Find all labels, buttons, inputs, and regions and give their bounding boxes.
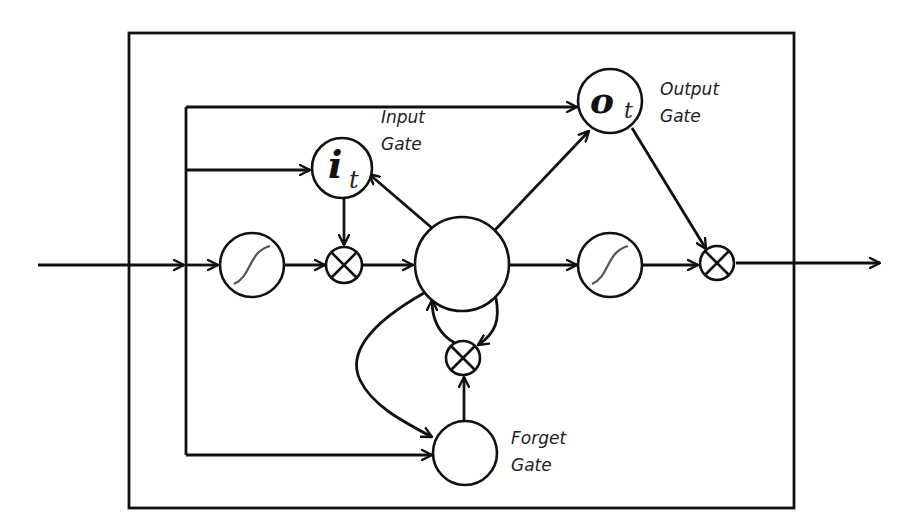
input-gate-subscript: t <box>349 166 359 194</box>
lstm-diagram <box>0 0 906 530</box>
forget-gate-label: Forget Gate <box>511 425 566 479</box>
output-squash-node <box>578 233 642 297</box>
output-multiplier-node <box>700 246 734 280</box>
forget-gate-node <box>433 421 497 485</box>
output-gate-label: Output Gate <box>660 76 719 130</box>
memory-cell-node <box>415 217 509 311</box>
input-squash-node <box>220 233 284 297</box>
cell-to-forget-gate <box>356 293 432 437</box>
input-gate-label: Input Gate <box>381 104 425 158</box>
output-gate-to-multiplier <box>632 128 706 249</box>
forget-multiplier-node <box>446 341 480 375</box>
input-gate-symbol: i <box>328 142 342 187</box>
cell-to-output-gate <box>494 131 589 231</box>
output-gate-subscript: t <box>624 98 633 123</box>
cell-to-input-gate <box>369 174 432 228</box>
output-gate-symbol: o <box>590 79 614 121</box>
input-multiplier-node <box>326 247 362 283</box>
